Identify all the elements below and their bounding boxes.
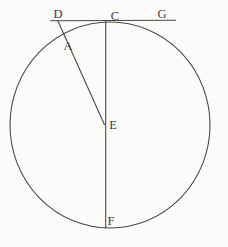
label-F: F bbox=[108, 214, 115, 228]
segment-DAE bbox=[58, 20, 105, 125]
label-A: A bbox=[63, 39, 72, 53]
geometry-figure: DCGAEF bbox=[0, 0, 228, 247]
label-C: C bbox=[111, 9, 119, 23]
figure-svg: DCGAEF bbox=[0, 0, 228, 247]
label-E: E bbox=[109, 118, 117, 132]
label-D: D bbox=[53, 7, 62, 21]
label-G: G bbox=[157, 7, 166, 21]
